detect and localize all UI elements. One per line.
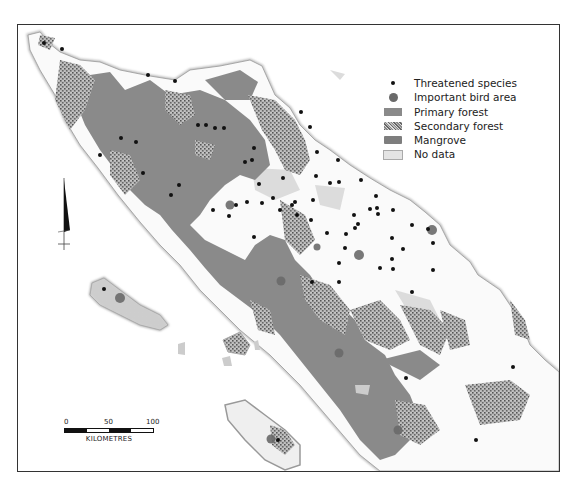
scale-unit-label: KILOMETRES bbox=[64, 435, 154, 443]
scale-bar-graphic bbox=[64, 428, 154, 433]
legend-label: Threatened species bbox=[414, 76, 517, 90]
secondary-forest-swatch-icon bbox=[384, 122, 402, 130]
scale-bar: 0 50 100 KILOMETRES bbox=[64, 418, 154, 443]
bird-area-circle-icon bbox=[389, 93, 398, 102]
legend-item-mangrove: Mangrove bbox=[383, 133, 517, 147]
no-data-swatch-icon bbox=[383, 150, 403, 160]
legend-label: Mangrove bbox=[414, 133, 466, 147]
primary-forest-swatch-icon bbox=[384, 108, 402, 116]
mangrove-swatch-icon bbox=[384, 136, 402, 144]
legend-item-secondary-forest: Secondary forest bbox=[383, 119, 517, 133]
legend-label: Important bird area bbox=[414, 90, 517, 104]
map-legend: Threatened species Important bird area P… bbox=[383, 76, 517, 162]
legend-item-important-bird-area: Important bird area bbox=[383, 90, 517, 104]
legend-item-no-data: No data bbox=[383, 147, 517, 161]
legend-item-primary-forest: Primary forest bbox=[383, 105, 517, 119]
north-arrow-icon bbox=[58, 178, 70, 250]
scale-tick-0: 0 bbox=[64, 418, 68, 426]
scale-tick-100: 100 bbox=[146, 418, 159, 426]
scale-tick-50: 50 bbox=[104, 418, 113, 426]
threatened-species-dot-icon bbox=[391, 81, 395, 85]
legend-label: Secondary forest bbox=[414, 119, 503, 133]
legend-item-threatened-species: Threatened species bbox=[383, 76, 517, 90]
legend-label: No data bbox=[414, 147, 455, 161]
legend-label: Primary forest bbox=[414, 105, 488, 119]
map-canvas bbox=[0, 0, 577, 487]
